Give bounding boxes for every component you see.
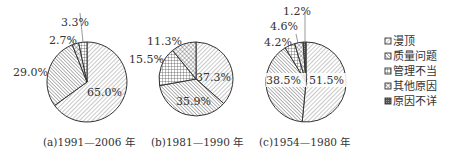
legend-item-unknown: 原因不详: [393, 94, 437, 108]
pie-b-caption: (b)1981—1990 年: [151, 136, 243, 148]
pie-a-caption: (a)1991—2006 年: [43, 136, 135, 148]
legend-swatch-overtopping: [385, 38, 391, 44]
legend-item-management: 管理不当: [393, 64, 437, 78]
pie-c-label-3: 4.2%: [264, 36, 292, 49]
pie-c-label-4: 4.6%: [270, 20, 298, 33]
pie-a: 65.0% 29.0% 2.7% 3.3% (a)1991—2006 年: [13, 13, 135, 148]
pie-c-label-1: 51.5%: [309, 74, 344, 87]
legend-item-overtopping: 漫顶: [393, 34, 415, 48]
pie-charts: 65.0% 29.0% 2.7% 3.3% (a)1991—2006 年 37.…: [0, 0, 449, 163]
legend-swatch-management: [385, 68, 391, 74]
pie-c-label-2: 38.5%: [266, 74, 301, 87]
legend: 漫顶 质量问题 管理不当 其他原因 原因不详: [385, 34, 437, 108]
legend-swatch-quality: [385, 53, 391, 59]
legend-swatch-unknown: [385, 98, 391, 104]
pie-c: 51.5% 38.5% 4.2% 4.6% 1.2% (c)1954—1980 …: [259, 5, 350, 148]
legend-swatch-other: [385, 83, 391, 89]
pie-c-caption: (c)1954—1980 年: [259, 136, 350, 148]
pie-c-label-5: 1.2%: [283, 5, 311, 18]
pie-a-label-4: 3.3%: [61, 16, 89, 29]
pie-b-label-4: 11.3%: [147, 35, 182, 48]
pie-b-label-2: 35.9%: [176, 95, 211, 108]
pie-a-label-3: 2.7%: [49, 34, 77, 47]
pie-b-label-3: 15.5%: [129, 53, 164, 66]
pie-a-label-2: 29.0%: [13, 66, 48, 79]
pie-a-label-1: 65.0%: [87, 86, 122, 99]
legend-item-other: 其他原因: [393, 80, 437, 93]
pie-b: 37.3% 35.9% 15.5% 11.3% (b)1981—1990 年: [129, 35, 243, 148]
pie-b-label-1: 37.3%: [196, 71, 231, 84]
legend-item-quality: 质量问题: [393, 50, 437, 63]
